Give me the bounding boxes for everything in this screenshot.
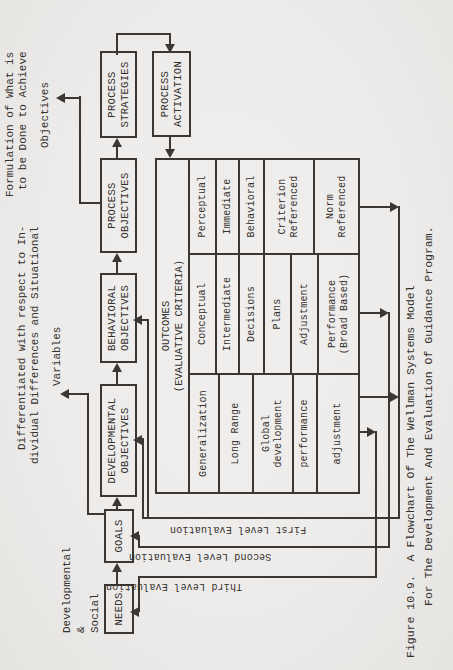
outcomes-table: OUTCOMES (EVALUATIVE CRITERIA) Generaliz… <box>155 158 360 494</box>
developmental-objectives-box: DEVELOPMENTAL OBJECTIVES <box>100 384 137 497</box>
cell-immediate: Immediate <box>217 160 240 253</box>
arrowhead-goals-developmental <box>112 497 122 506</box>
arrow-process-objectives-strategies <box>116 146 118 160</box>
cell-generalization: Generalization <box>190 375 220 492</box>
figure-caption: Figure 10.9. A Flowchart Of The Wellman … <box>402 226 438 658</box>
first-level-riser <box>142 517 400 519</box>
arrowhead-into-goals <box>130 531 139 541</box>
cell-decisions: Decisions <box>240 255 265 373</box>
arrowhead-into-needs <box>130 607 139 617</box>
formulation-line3: Objectives <box>39 51 52 148</box>
formulation-bracket-h <box>79 96 81 204</box>
column-developmental-outcomes: Generalization Long Range Global develop… <box>190 375 358 492</box>
figure-caption-line2: For The Development And Evaluation Of Gu… <box>420 226 438 606</box>
arrow-developmental-behavioral <box>116 371 118 386</box>
cell-long-range: Long Range <box>220 375 254 492</box>
cell-intermediate: Intermediate <box>217 255 240 373</box>
process-activation-box: PROCESS ACTIVATION <box>152 51 191 137</box>
cell-norm-referenced: Norm Referenced <box>315 160 358 253</box>
arrowhead-into-developmental <box>133 435 142 445</box>
arrowhead-behavioral-process-objectives <box>112 253 122 262</box>
feedback-branch-behavioral-v <box>141 319 148 321</box>
third-level-rail <box>375 431 377 578</box>
figure-caption-line1: Figure 10.9. A Flowchart Of The Wellman … <box>402 226 420 658</box>
formulation-annotation: Formulation of What is to be Done to Ach… <box>4 51 52 197</box>
cell-behavioral: Behavioral <box>240 160 265 253</box>
wellman-flowchart: NEEDS GOALS DEVELOPMENTAL OBJECTIVES BEH… <box>0 0 453 670</box>
scanned-page: NEEDS GOALS DEVELOPMENTAL OBJECTIVES BEH… <box>0 0 453 670</box>
cell-global-development: Global development <box>254 375 294 492</box>
outcomes-table-header: OUTCOMES (EVALUATIVE CRITERIA) <box>157 160 190 492</box>
cell-adjustment: Adjustment <box>292 255 319 373</box>
differentiation-bracket-h <box>87 393 89 515</box>
cell-criterion-referenced: Criterion Referenced <box>265 160 315 253</box>
cell-perceptual: Perceptual <box>190 160 217 253</box>
formulation-line2: to be Done to Achieve <box>17 51 30 190</box>
second-level-evaluation-label: Second Level Evaluation <box>129 551 272 562</box>
cell-performance: performance <box>294 375 318 492</box>
arrowhead-needs-goals <box>112 563 122 572</box>
cell-adjustment-lower: adjustment <box>318 375 358 492</box>
formulation-line1: Formulation of What is <box>4 51 17 197</box>
cell-plans: Plans <box>265 255 292 373</box>
first-level-stub-mid <box>360 396 391 398</box>
first-level-evaluation-label: First Level Evaluation <box>170 524 306 535</box>
connector-strategies-activation-v <box>116 33 171 35</box>
differentiation-arrow-stem <box>68 393 87 395</box>
first-level-jog <box>142 438 144 519</box>
cell-performance-broad-based: Performance (Broad Based) <box>319 255 358 373</box>
first-level-rail <box>398 206 400 519</box>
differentiation-arrowhead <box>60 389 69 399</box>
feedback-branch-behavioral-h <box>147 319 149 518</box>
second-level-rail <box>388 312 390 548</box>
needs-annotation: Developmental & Social <box>60 547 102 633</box>
outcomes-title: OUTCOMES <box>160 301 173 351</box>
first-level-stub-right <box>360 206 391 208</box>
second-level-stub <box>360 312 381 314</box>
differentiation-annotation: Differentiated with respect to In- divid… <box>16 226 64 464</box>
behavioral-objectives-box: BEHAVIORAL OBJECTIVES <box>100 273 137 363</box>
cell-conceptual: Conceptual <box>190 255 217 373</box>
third-level-riser <box>138 576 377 578</box>
arrowhead-into-outcomes <box>165 149 175 158</box>
differentiation-line3: Variables <box>51 226 64 386</box>
arrow-behavioral-process-objectives <box>116 261 118 275</box>
arrowhead-into-behavioral <box>133 315 142 325</box>
third-level-evaluation-label: Third Level Evaluation <box>106 581 242 592</box>
differentiation-line1: Differentiated with respect to In- <box>16 226 29 450</box>
formulation-bracket-v <box>79 202 100 204</box>
arrowhead-into-activation <box>165 44 175 53</box>
formulation-arrowhead <box>56 93 65 103</box>
differentiation-bracket-v <box>87 513 104 515</box>
arrowhead-developmental-behavioral <box>112 363 122 372</box>
column-conceptual-outcomes: Conceptual Intermediate Decisions Plans … <box>190 255 358 375</box>
process-objectives-box: PROCESS OBJECTIVES <box>100 158 137 253</box>
arrowhead-process-objectives-strategies <box>112 138 122 147</box>
process-strategies-box: PROCESS STRATEGIES <box>100 51 137 138</box>
second-level-riser <box>138 546 390 548</box>
formulation-arrow-stem <box>64 97 79 99</box>
connector-strategies-activation-h1 <box>116 33 118 55</box>
differentiation-line2: dividual Differences and Situational <box>29 226 42 464</box>
column-perceptual-outcomes: Perceptual Immediate Behavioral Criterio… <box>190 160 358 255</box>
outcomes-subtitle: (EVALUATIVE CRITERIA) <box>173 260 186 392</box>
